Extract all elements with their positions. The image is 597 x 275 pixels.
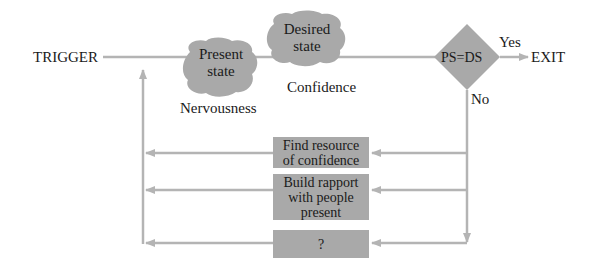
present-state-caption: Nervousness (180, 100, 257, 117)
action-box-unknown: ? (273, 230, 369, 258)
trigger-label: TRIGGER (33, 49, 98, 66)
exit-label: EXIT (531, 49, 565, 66)
action-box-build-rapport: Build rapport with people present (273, 174, 369, 220)
present-state-line2: state (190, 63, 252, 80)
yes-label: Yes (499, 34, 521, 51)
desired-state-line1: Desired (275, 21, 339, 38)
action-2-line1: Build rapport (283, 175, 358, 190)
decision-label: PS=DS (441, 49, 482, 66)
action-box-find-resource: Find resource of confidence (273, 137, 369, 168)
action-1-line2: of confidence (283, 153, 360, 168)
present-state-line1: Present (190, 46, 252, 63)
action-2-line2: with people (283, 190, 358, 205)
present-state-label: Present state (190, 46, 252, 80)
desired-state-label: Desired state (275, 21, 339, 55)
no-label: No (471, 91, 489, 108)
desired-state-caption: Confidence (287, 79, 356, 96)
action-3-line1: ? (318, 237, 324, 252)
action-1-line1: Find resource (283, 138, 360, 153)
action-2-line3: present (283, 205, 358, 220)
desired-state-line2: state (275, 38, 339, 55)
